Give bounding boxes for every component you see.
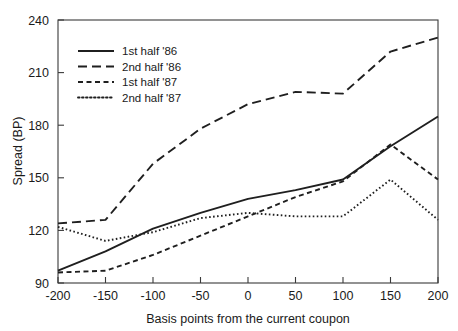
spread-line-chart: 90120150180210240 -200-150-100-500501001…: [0, 0, 458, 331]
series-line-2: [58, 38, 438, 224]
x-tick-label: -200: [45, 289, 70, 303]
y-tick-label: 240: [28, 14, 49, 28]
data-series-group: [58, 38, 438, 273]
chart-container: 90120150180210240 -200-150-100-500501001…: [0, 0, 458, 331]
legend-label-3: 1st half '87: [122, 76, 177, 88]
series-line-4: [58, 180, 438, 241]
series-line-1: [58, 116, 438, 270]
legend-label-4: 2nd half '87: [122, 92, 181, 104]
chart-legend: 1st half '862nd half '861st half '872nd …: [78, 45, 181, 104]
x-tick-label: -100: [140, 289, 165, 303]
x-tick-label: 50: [289, 289, 303, 303]
x-tick-label: 0: [245, 289, 252, 303]
x-tick-label: 200: [428, 289, 449, 303]
y-tick-label: 210: [28, 66, 49, 80]
x-axis: -200-150-100-50050100150200: [45, 277, 448, 303]
y-tick-label: 150: [28, 171, 49, 185]
legend-label-1: 1st half '86: [122, 45, 177, 57]
y-tick-label: 120: [28, 224, 49, 238]
x-tick-label: 150: [380, 289, 401, 303]
x-tick-label: -50: [191, 289, 209, 303]
y-axis: 90120150180210240: [28, 14, 64, 291]
legend-label-2: 2nd half '86: [122, 61, 181, 73]
x-axis-title: Basis points from the current coupon: [146, 312, 350, 326]
y-tick-label: 180: [28, 119, 49, 133]
y-axis-title: Spread (BP): [11, 117, 25, 186]
x-tick-label: 100: [333, 289, 354, 303]
x-tick-label: -150: [93, 289, 118, 303]
